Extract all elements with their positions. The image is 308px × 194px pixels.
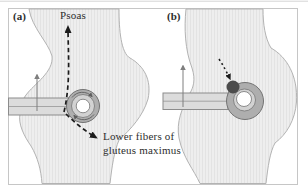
injection-site-dot [227, 81, 240, 94]
two-panel-hip-diagram: (a) Psoas Lower fibers of gluteus maximu… [0, 0, 308, 194]
panel-b-tendon-band [163, 93, 228, 110]
anatomy-figure: (a) Psoas Lower fibers of gluteus maximu… [0, 0, 308, 194]
lower-fibers-annotation-line2: gluteus maximus [103, 144, 181, 156]
panel-a-trochanter-ring [67, 90, 100, 123]
lower-fibers-annotation-line1: Lower fibers of [103, 130, 175, 142]
panel-b-ring-center [237, 92, 252, 107]
panel-a-ring-center [76, 99, 90, 113]
panel-a-label: (a) [13, 10, 26, 23]
panel-b-label: (b) [167, 10, 181, 23]
psoas-annotation: Psoas [60, 9, 86, 21]
panel-a-tendon-band [9, 98, 71, 115]
